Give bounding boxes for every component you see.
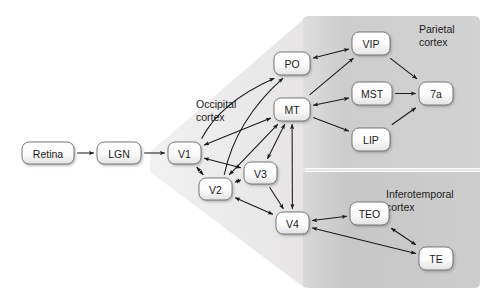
node-mt[interactable]: MT	[274, 98, 310, 121]
diagram-canvas: Occipital cortex Parietal cortex Inferot…	[0, 0, 484, 299]
node-box-po[interactable]	[274, 52, 310, 75]
node-box-v2[interactable]	[199, 178, 232, 200]
node-v4[interactable]: V4	[276, 212, 309, 234]
node-te[interactable]: TE	[419, 247, 453, 270]
node-box-v3[interactable]	[244, 162, 277, 184]
region-inferotemporal	[303, 172, 480, 288]
node-box-7a[interactable]	[419, 82, 453, 105]
node-v2[interactable]: V2	[199, 178, 232, 200]
node-po[interactable]: PO	[274, 52, 310, 75]
node-box-retina[interactable]	[22, 142, 74, 164]
node-mst[interactable]: MST	[352, 82, 392, 105]
node-box-v4[interactable]	[276, 212, 309, 234]
node-box-lip[interactable]	[352, 128, 390, 151]
node-box-vip[interactable]	[352, 32, 390, 55]
node-box-lgn[interactable]	[97, 142, 141, 164]
node-lgn[interactable]: LGN	[97, 142, 141, 164]
node-box-mt[interactable]	[274, 98, 310, 121]
node-box-te[interactable]	[419, 247, 453, 270]
node-v1[interactable]: V1	[168, 142, 201, 164]
node-7a[interactable]: 7a	[419, 82, 453, 105]
node-v3[interactable]: V3	[244, 162, 277, 184]
node-box-mst[interactable]	[352, 82, 392, 105]
node-vip[interactable]: VIP	[352, 32, 390, 55]
node-retina[interactable]: Retina	[22, 142, 74, 164]
node-lip[interactable]: LIP	[352, 128, 390, 151]
node-teo[interactable]: TEO	[350, 202, 389, 225]
visual-cortex-diagram: Occipital cortex Parietal cortex Inferot…	[0, 0, 484, 299]
node-box-v1[interactable]	[168, 142, 201, 164]
node-box-teo[interactable]	[350, 202, 389, 225]
